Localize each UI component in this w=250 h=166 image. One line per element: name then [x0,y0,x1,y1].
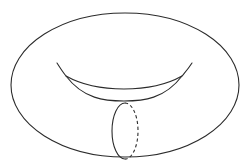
torus-surface-fill [11,13,239,157]
torus-svg: Torus Line drawing of a torus (donut sha… [0,0,250,166]
torus-figure: Torus Line drawing of a torus (donut sha… [0,0,250,166]
